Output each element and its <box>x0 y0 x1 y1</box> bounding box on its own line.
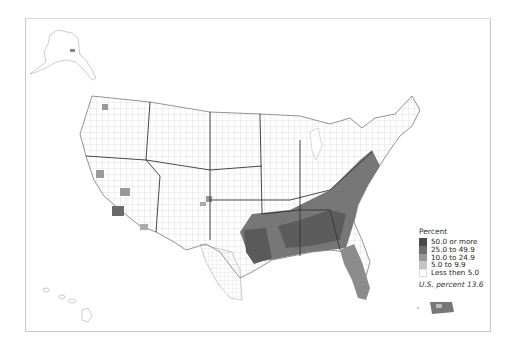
legend-swatch <box>419 261 427 269</box>
contiguous-us <box>80 96 420 300</box>
legend-swatch <box>419 246 427 254</box>
legend-swatch <box>419 238 427 246</box>
map-legend: Percent 50.0 or more 25.0 to 49.9 10.0 t… <box>419 227 499 289</box>
puerto-rico-inset <box>417 302 454 314</box>
legend-swatch <box>419 254 427 262</box>
alaska-inset <box>30 30 96 80</box>
legend-title: Percent <box>419 227 499 236</box>
us-county-choropleth-map <box>0 0 505 342</box>
legend-swatch <box>419 269 427 277</box>
legend-item: Less then 5.0 <box>419 269 499 277</box>
national-percent-note: U.S. percent 13.6 <box>419 280 499 289</box>
hawaii-inset <box>43 288 92 322</box>
legend-label: Less then 5.0 <box>431 269 479 277</box>
